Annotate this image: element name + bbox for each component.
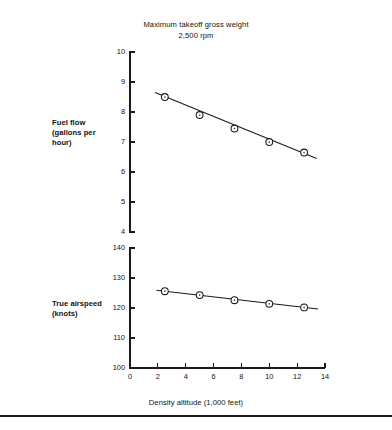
x-tick-label: 2 xyxy=(156,372,160,381)
data-point-center xyxy=(164,96,166,98)
true-airspeed-axes: 100110120130140 02468101214 xyxy=(113,243,329,380)
fuel-flow-plot: 45678910 xyxy=(112,44,342,242)
chart-title-line-1: Maximum takeoff gross weight xyxy=(143,20,248,29)
fuel-flow-y-axis: 45678910 xyxy=(117,47,135,236)
true-airspeed-svg: 100110120130140 02468101214 xyxy=(112,240,342,400)
fuel-flow-axis-caption: Fuel flow (gallons per hour) xyxy=(52,118,114,149)
y-tick-label: 9 xyxy=(121,77,125,86)
x-tick-label: 6 xyxy=(212,372,216,381)
data-point-center xyxy=(303,307,305,309)
y-tick-label: 5 xyxy=(121,197,125,206)
fuel-flow-svg: 45678910 xyxy=(112,44,342,242)
data-point-center xyxy=(268,303,270,305)
data-point-center xyxy=(199,294,201,296)
data-point-center xyxy=(234,128,236,130)
data-point-center xyxy=(303,152,305,154)
data-point-center xyxy=(268,141,270,143)
x-tick-label: 14 xyxy=(321,372,329,381)
true-airspeed-y-ticks: 100110120130140 xyxy=(113,243,135,372)
y-tick-label: 100 xyxy=(113,363,125,372)
fuel-flow-markers xyxy=(161,94,307,156)
fuel-flow-y-ticks: 45678910 xyxy=(117,47,135,236)
y-tick-label: 4 xyxy=(121,227,125,236)
y-tick-label: 7 xyxy=(121,137,125,146)
x-tick-label: 8 xyxy=(239,372,243,381)
true-airspeed-plot: 100110120130140 02468101214 xyxy=(112,240,342,400)
true-airspeed-series xyxy=(156,288,318,311)
y-tick-label: 110 xyxy=(113,333,125,342)
chart-title: Maximum takeoff gross weight 2,500 rpm xyxy=(0,20,392,41)
data-point-center xyxy=(234,299,236,301)
y-tick-label: 130 xyxy=(113,273,125,282)
y-tick-label: 6 xyxy=(121,167,125,176)
data-point-center xyxy=(164,290,166,292)
true-airspeed-x-ticks: 02468101214 xyxy=(128,363,329,381)
x-tick-label: 12 xyxy=(293,372,301,381)
y-tick-label: 8 xyxy=(121,107,125,116)
figure-page: Maximum takeoff gross weight 2,500 rpm F… xyxy=(0,0,392,430)
fuel-flow-series xyxy=(155,93,317,159)
y-tick-label: 10 xyxy=(117,47,125,56)
x-tick-label: 10 xyxy=(265,372,273,381)
page-bottom-rule xyxy=(0,415,392,417)
x-tick-label: 0 xyxy=(128,372,132,381)
chart-title-line-2: 2,500 rpm xyxy=(0,31,392,42)
x-tick-label: 4 xyxy=(184,372,188,381)
y-tick-label: 140 xyxy=(113,243,125,252)
true-airspeed-axis-caption: True airspeed (knots) xyxy=(52,299,114,319)
y-tick-label: 120 xyxy=(113,303,125,312)
x-axis-caption: Density altitude (1,000 feet) xyxy=(0,398,392,407)
data-point-center xyxy=(199,114,201,116)
true-airspeed-markers xyxy=(161,288,307,311)
